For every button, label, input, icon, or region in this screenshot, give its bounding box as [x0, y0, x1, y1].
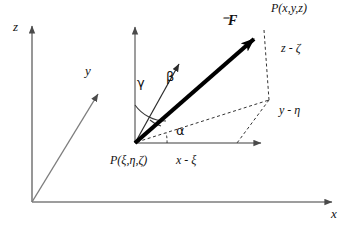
tip-point-label: P(x,y,z)	[271, 2, 307, 14]
force-vector-diagram: z y x γ β α ⁻F P(x,y,z) z - ζ y - η x - …	[0, 0, 355, 226]
global-z-axis-label: z	[13, 20, 18, 33]
alpha-angle-label: α	[176, 124, 185, 137]
dx-component-label: x - ξ	[176, 154, 196, 166]
dy-component-label: y - η	[279, 104, 300, 116]
origin-point-label: P(ξ,η,ζ)	[110, 154, 147, 166]
global-x-axis-label: x	[331, 207, 337, 220]
force-vector-label: ⁻F	[221, 14, 237, 28]
alpha-arc	[166, 133, 167, 143]
dz-component-label: z - ζ	[281, 42, 301, 54]
xy-projection-dashed	[137, 100, 269, 142]
vectors-group	[135, 39, 254, 143]
beta-angle-label: β	[166, 70, 174, 83]
diagram-canvas	[0, 0, 355, 226]
gamma-angle-label: γ	[137, 76, 145, 89]
global-y-axis	[32, 94, 98, 202]
global-y-axis-label: y	[85, 64, 91, 77]
force-vector	[135, 39, 254, 143]
y-offset-dashed	[237, 100, 269, 143]
vertical-drop-dashed	[264, 30, 269, 100]
